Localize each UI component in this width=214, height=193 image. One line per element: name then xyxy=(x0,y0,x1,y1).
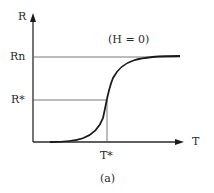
resistance-temperature-diagram: R T Rn R* T* (H = 0) (a) xyxy=(0,0,214,193)
y-axis-arrow-icon xyxy=(30,13,36,22)
plot-svg xyxy=(0,0,214,193)
x-axis-label: T xyxy=(192,136,199,147)
figure-caption: (a) xyxy=(100,173,115,184)
condition-annotation: (H = 0) xyxy=(108,34,149,45)
x-tick-t-star: T* xyxy=(100,150,113,161)
y-tick-r-star: R* xyxy=(11,94,25,105)
r-t-curve xyxy=(50,56,180,142)
y-axis-label: R xyxy=(18,11,26,22)
x-axis-arrow-icon xyxy=(175,139,184,145)
y-tick-rn: Rn xyxy=(10,51,25,62)
